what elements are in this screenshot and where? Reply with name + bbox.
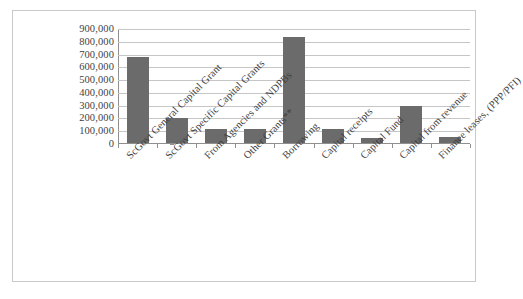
y-axis-tick-label: 300,000 xyxy=(79,101,114,111)
x-axis-tick-mark xyxy=(314,144,315,148)
y-axis-tick-labels: 900,000800,000700,000600,000500,000400,0… xyxy=(56,29,114,144)
x-axis-tick-mark xyxy=(353,144,354,148)
x-axis-tick-mark xyxy=(157,144,158,148)
y-axis-tick-label: 500,000 xyxy=(79,75,114,85)
y-axis-tick-label: 200,000 xyxy=(79,113,114,123)
y-axis-tick-label: 900,000 xyxy=(79,24,114,34)
x-axis-tick-mark xyxy=(274,144,275,148)
cut-off-caption xyxy=(120,289,480,299)
x-axis-tick-mark xyxy=(235,144,236,148)
plot-area xyxy=(118,29,470,144)
x-axis-tick-mark xyxy=(118,144,119,148)
bar xyxy=(283,37,305,144)
y-axis-tick-label: 700,000 xyxy=(79,50,114,60)
y-axis-tick-label: 400,000 xyxy=(79,88,114,98)
x-axis-tick-mark xyxy=(470,144,471,148)
y-axis-tick-label: 600,000 xyxy=(79,62,114,72)
x-axis-tick-mark xyxy=(431,144,432,148)
y-axis-tick-label: 0 xyxy=(109,139,114,149)
gridline xyxy=(118,29,470,30)
y-axis-tick-label: 800,000 xyxy=(79,37,114,47)
x-axis-tick-mark xyxy=(196,144,197,148)
y-axis-tick-label: 100,000 xyxy=(79,126,114,136)
x-axis-tick-mark xyxy=(392,144,393,148)
